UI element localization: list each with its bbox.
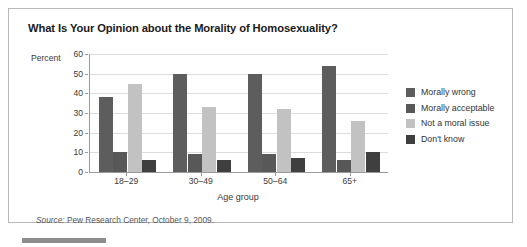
plot-area: [89, 54, 388, 173]
bar: [351, 121, 365, 172]
bar: [188, 154, 202, 172]
bar: [128, 84, 142, 173]
legend-label: Don't know: [421, 135, 464, 144]
y-tick-label: 60: [57, 50, 83, 59]
x-tick-label: 18–29: [91, 177, 161, 186]
x-tick-label: 30–49: [166, 177, 236, 186]
bar-group: [173, 54, 231, 172]
legend-item: Don't know: [406, 132, 494, 148]
legend-swatch-icon: [406, 104, 415, 113]
bar: [113, 152, 127, 172]
x-tick-label: 50–64: [240, 177, 310, 186]
bar-group: [322, 54, 380, 172]
y-tick-mark: [85, 152, 88, 153]
chart-figure: What Is Your Opinion about the Morality …: [8, 8, 513, 223]
legend-swatch-icon: [406, 88, 415, 97]
bar-group: [99, 54, 157, 172]
bar: [277, 109, 291, 172]
y-tick-mark: [85, 74, 88, 75]
y-tick-mark: [85, 113, 88, 114]
y-tick-label: 30: [57, 109, 83, 118]
bar: [202, 107, 216, 172]
bar: [142, 160, 156, 172]
legend-label: Morally acceptable: [421, 104, 494, 113]
chart-legend: Morally wrongMorally acceptableNot a mor…: [406, 85, 494, 147]
y-tick-mark: [85, 93, 88, 94]
y-tick-mark: [85, 133, 88, 134]
source-text: Pew Research Center, October 9, 2009.: [65, 215, 214, 225]
legend-swatch-icon: [406, 135, 415, 144]
bar-group: [248, 54, 306, 172]
bar: [337, 160, 351, 172]
y-tick-label: 20: [57, 129, 83, 138]
y-tick-label: 10: [57, 148, 83, 157]
legend-label: Not a moral issue: [421, 119, 489, 128]
y-tick-label: 40: [57, 89, 83, 98]
legend-item: Morally acceptable: [406, 101, 494, 117]
x-axis-title: Age group: [89, 192, 387, 202]
source-label: Source:: [36, 215, 65, 225]
y-tick-label: 50: [57, 70, 83, 79]
legend-item: Not a moral issue: [406, 116, 494, 132]
source-note: Source: Pew Research Center, October 9, …: [36, 215, 214, 225]
bar: [217, 160, 231, 172]
bar: [291, 158, 305, 172]
y-tick-label: 0: [57, 168, 83, 177]
y-tick-mark: [85, 172, 88, 173]
bar: [99, 97, 113, 172]
legend-item: Morally wrong: [406, 85, 494, 101]
chart-title: What Is Your Opinion about the Morality …: [28, 22, 338, 34]
x-tick-label: 65+: [315, 177, 385, 186]
bar: [322, 66, 336, 172]
legend-swatch-icon: [406, 119, 415, 128]
bar: [262, 154, 276, 172]
footer-rule: [22, 238, 106, 243]
legend-label: Morally wrong: [421, 88, 476, 97]
bar: [366, 152, 380, 172]
bar: [248, 74, 262, 172]
y-tick-mark: [85, 54, 88, 55]
bar: [173, 74, 187, 172]
